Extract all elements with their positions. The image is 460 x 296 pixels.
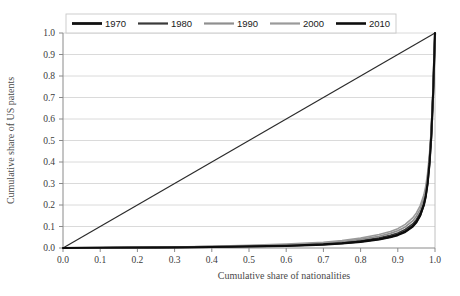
legend-label-1990: 1990	[237, 18, 258, 29]
x-axis-title: Cumulative share of nationalities	[218, 270, 351, 281]
x-tick-label: 0.5	[243, 255, 255, 265]
x-axis-ticks: 0.00.10.20.30.40.50.60.70.80.91.0	[57, 248, 441, 265]
x-tick-label: 0.6	[280, 255, 292, 265]
gridlines	[63, 33, 435, 227]
y-tick-label: 0.0	[43, 243, 55, 253]
x-tick-label: 0.4	[206, 255, 218, 265]
legend-label-2010: 2010	[369, 18, 390, 29]
x-tick-label: 0.1	[94, 255, 106, 265]
y-tick-label: 0.8	[43, 71, 55, 81]
lorenz-curve-chart: 0.00.10.20.30.40.50.60.70.80.91.00.00.10…	[0, 0, 460, 296]
x-tick-label: 0.0	[57, 255, 69, 265]
y-tick-label: 0.7	[43, 93, 55, 103]
x-tick-label: 0.8	[355, 255, 367, 265]
y-tick-label: 1.0	[43, 28, 55, 38]
y-tick-label: 0.2	[43, 200, 55, 210]
x-tick-label: 0.3	[169, 255, 181, 265]
y-tick-label: 0.5	[43, 136, 55, 146]
x-tick-label: 0.7	[317, 255, 329, 265]
x-tick-label: 1.0	[429, 255, 441, 265]
legend: 19701980199020002010	[66, 14, 396, 33]
legend-label-1980: 1980	[171, 18, 192, 29]
y-axis-ticks: 0.00.10.20.30.40.50.60.70.80.91.0	[43, 28, 63, 253]
x-tick-label: 0.9	[392, 255, 404, 265]
chart-canvas: 0.00.10.20.30.40.50.60.70.80.91.00.00.10…	[0, 0, 460, 296]
x-tick-label: 0.2	[131, 255, 143, 265]
legend-label-1970: 1970	[105, 18, 126, 29]
y-tick-label: 0.6	[43, 114, 55, 124]
y-axis-title: Cumulative share of US patents	[5, 77, 16, 204]
y-tick-label: 0.1	[43, 222, 55, 232]
y-tick-label: 0.3	[43, 179, 55, 189]
legend-label-2000: 2000	[303, 18, 324, 29]
y-tick-label: 0.9	[43, 50, 55, 60]
y-tick-label: 0.4	[43, 157, 55, 167]
